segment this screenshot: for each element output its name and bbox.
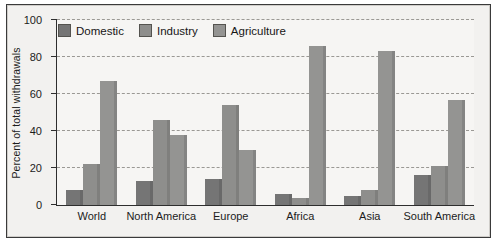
bar-domestic-south-america <box>414 175 431 205</box>
legend-item-domestic: Domestic <box>58 24 124 37</box>
bar-group: World <box>57 20 127 205</box>
bar-agriculture-africa <box>309 46 326 205</box>
bar-agriculture-europe <box>239 150 256 206</box>
bar-group: Europe <box>196 20 266 205</box>
x-axis-label-asia: Asia <box>359 210 380 222</box>
bar-group: Africa <box>266 20 336 205</box>
legend-swatch-agriculture <box>213 24 226 37</box>
bar-domestic-asia <box>344 196 361 205</box>
x-axis-label-europe: Europe <box>213 210 248 222</box>
x-axis-label-north-america: North America <box>126 210 196 222</box>
bar-industry-north-america <box>153 120 170 205</box>
y-axis-title-text: Percent of total withdrawals <box>10 47 22 178</box>
legend-swatch-industry <box>139 24 152 37</box>
x-axis-label-africa: Africa <box>286 210 314 222</box>
y-axis-tick-label: 80 <box>30 52 42 63</box>
bar-group: North America <box>127 20 197 205</box>
bar-industry-africa <box>292 198 309 205</box>
y-axis-tick-label: 100 <box>24 15 42 26</box>
bar-group-bars <box>205 20 256 205</box>
chart-legend: DomesticIndustryAgriculture <box>56 24 286 37</box>
bar-group-bars <box>136 20 187 205</box>
legend-label-agriculture: Agriculture <box>231 25 286 37</box>
bar-agriculture-north-america <box>170 135 187 205</box>
chart-screenshot: Percent of total withdrawals 02040608010… <box>0 0 497 244</box>
bar-industry-south-america <box>431 166 448 205</box>
bar-group-bars <box>414 20 465 205</box>
y-axis-tick-label: 40 <box>30 126 42 137</box>
y-axis-title: Percent of total withdrawals <box>8 20 24 206</box>
bar-agriculture-world <box>100 81 117 205</box>
legend-item-agriculture: Agriculture <box>213 24 286 37</box>
plot-area: 020406080100 WorldNorth AmericaEuropeAfr… <box>56 20 474 206</box>
bar-industry-europe <box>222 105 239 205</box>
x-axis-label-south-america: South America <box>403 210 475 222</box>
legend-label-industry: Industry <box>157 25 198 37</box>
bar-domestic-europe <box>205 179 222 205</box>
bar-domestic-world <box>66 190 83 205</box>
y-axis-tick-label: 60 <box>30 89 42 100</box>
bar-industry-world <box>83 164 100 205</box>
bar-agriculture-south-america <box>448 100 465 205</box>
x-axis-label-world: World <box>77 210 106 222</box>
bar-domestic-north-america <box>136 181 153 205</box>
bar-industry-asia <box>361 190 378 205</box>
y-axis-tick-label: 20 <box>30 163 42 174</box>
bar-group-bars <box>66 20 117 205</box>
legend-swatch-domestic <box>58 24 71 37</box>
bar-group: South America <box>405 20 475 205</box>
bar-group: Asia <box>335 20 405 205</box>
legend-item-industry: Industry <box>139 24 198 37</box>
bar-groups: WorldNorth AmericaEuropeAfricaAsiaSouth … <box>57 20 474 205</box>
legend-label-domestic: Domestic <box>76 25 124 37</box>
bar-agriculture-asia <box>378 51 395 205</box>
bar-group-bars <box>344 20 395 205</box>
y-axis-tick-label: 0 <box>36 200 42 211</box>
bar-group-bars <box>275 20 326 205</box>
bar-domestic-africa <box>275 194 292 205</box>
